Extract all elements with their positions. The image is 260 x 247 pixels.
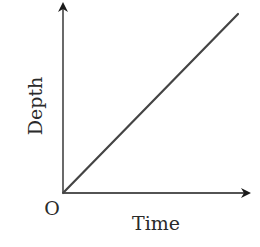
x-axis-label: Time [132, 212, 180, 234]
data-line [63, 14, 238, 193]
origin-label: O [44, 197, 60, 219]
chart-svg: Depth Time O [0, 0, 260, 247]
y-axis-label: Depth [24, 77, 46, 136]
depth-time-chart: Depth Time O [0, 0, 260, 247]
